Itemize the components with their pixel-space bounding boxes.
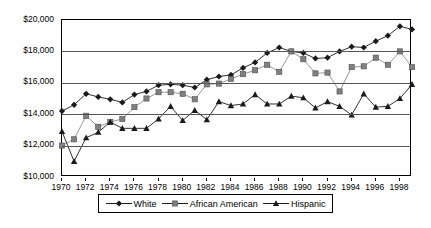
- square-marker: [192, 97, 197, 102]
- x-axis-tickmark: [351, 178, 352, 181]
- square-marker: [96, 124, 101, 129]
- triangle-marker: [167, 103, 173, 109]
- square-marker: [337, 89, 342, 94]
- diamond-marker: [409, 26, 415, 32]
- diamond-marker: [216, 73, 222, 79]
- x-axis-tick-label: 1992: [317, 182, 336, 192]
- triangle-marker: [240, 101, 246, 107]
- triangle-marker: [361, 90, 367, 96]
- square-marker: [313, 71, 318, 76]
- legend-item-hispanic[interactable]: Hispanic: [263, 199, 326, 209]
- gridline: [62, 114, 410, 115]
- square-marker-icon: [162, 199, 188, 208]
- y-axis-tick-label: $14,000: [23, 109, 54, 118]
- square-marker: [373, 55, 378, 60]
- square-marker: [132, 105, 137, 110]
- x-axis-tickmark: [85, 178, 86, 181]
- legend-item-white[interactable]: White: [106, 199, 157, 209]
- series-layer: [62, 20, 412, 177]
- diamond-marker: [192, 84, 198, 90]
- x-axis-tick-label: 1982: [196, 182, 215, 192]
- x-axis-tick-label: 1984: [220, 182, 239, 192]
- triangle-marker: [216, 98, 222, 104]
- diamond-marker: [361, 44, 367, 50]
- x-axis-tick-label: 1980: [172, 182, 191, 192]
- diamond-marker: [276, 44, 282, 50]
- income-line-chart: $20,000$18,000$16,000$14,000$12,000$10,0…: [0, 0, 431, 228]
- triangle-marker: [59, 128, 65, 134]
- square-marker: [325, 70, 330, 75]
- x-axis-tick-label: 1998: [389, 182, 408, 192]
- x-axis-tickmark: [61, 178, 62, 181]
- series-hispanic: [59, 81, 415, 164]
- square-marker: [409, 65, 414, 70]
- square-marker: [168, 90, 173, 95]
- x-axis-tickmark: [158, 178, 159, 181]
- y-axis-tick-label: $16,000: [23, 77, 54, 86]
- x-axis-tickmark: [230, 178, 231, 181]
- triangle-marker: [252, 91, 258, 97]
- diamond-marker: [119, 99, 125, 105]
- y-axis: $20,000$18,000$16,000$14,000$12,000$10,0…: [0, 0, 58, 228]
- diamond-marker-icon: [106, 199, 132, 208]
- y-axis-tick-label: $18,000: [23, 46, 54, 55]
- x-axis-tick-label: 1994: [341, 182, 360, 192]
- diamond-marker: [143, 88, 149, 94]
- x-axis-tickmark: [302, 178, 303, 181]
- plot-area: [61, 19, 411, 176]
- x-axis-tickmark: [182, 178, 183, 181]
- chart-legend: WhiteAfrican AmericanHispanic: [98, 194, 333, 213]
- x-axis: 1970197219741976197819801982198419861988…: [0, 178, 431, 192]
- square-marker: [180, 91, 185, 96]
- diamond-marker: [115, 200, 121, 206]
- square-marker: [349, 65, 354, 70]
- x-axis-tick-label: 1972: [76, 182, 95, 192]
- square-marker: [240, 72, 245, 77]
- x-axis-tick-label: 1970: [52, 182, 71, 192]
- square-marker: [277, 69, 282, 74]
- legend-label: White: [134, 199, 157, 209]
- y-axis-tick-label: $12,000: [23, 140, 54, 149]
- diamond-marker: [324, 55, 330, 61]
- x-axis-tickmark: [206, 178, 207, 181]
- square-marker: [144, 96, 149, 101]
- diamond-marker: [95, 94, 101, 100]
- square-marker: [265, 62, 270, 67]
- square-marker: [253, 68, 258, 73]
- x-axis-tickmark: [375, 178, 376, 181]
- x-axis-tick-label: 1988: [269, 182, 288, 192]
- x-axis-tick-label: 1996: [365, 182, 384, 192]
- triangle-marker: [71, 158, 77, 164]
- square-marker: [120, 116, 125, 121]
- x-axis-tick-label: 1976: [124, 182, 143, 192]
- x-axis-tick-label: 1974: [100, 182, 119, 192]
- x-axis-tickmark: [109, 178, 110, 181]
- series-line: [62, 26, 412, 111]
- x-axis-tick-label: 1978: [148, 182, 167, 192]
- x-axis-tickmark: [327, 178, 328, 181]
- triangle-marker: [273, 200, 279, 206]
- x-axis-tickmark: [254, 178, 255, 181]
- legend-label: Hispanic: [291, 199, 326, 209]
- diamond-marker: [312, 55, 318, 61]
- triangle-marker: [288, 93, 294, 99]
- square-marker: [156, 90, 161, 95]
- x-axis-tickmark: [133, 178, 134, 181]
- diamond-marker: [373, 38, 379, 44]
- diamond-marker: [349, 44, 355, 50]
- square-marker: [361, 64, 366, 69]
- legend-label: African American: [190, 199, 258, 209]
- square-marker: [71, 137, 76, 142]
- legend-item-african-american[interactable]: African American: [162, 199, 258, 209]
- gridline: [62, 83, 410, 84]
- triangle-marker: [385, 103, 391, 109]
- square-marker: [228, 76, 233, 81]
- diamond-marker: [131, 91, 137, 97]
- diamond-marker: [240, 65, 246, 71]
- square-marker: [301, 57, 306, 62]
- gridline: [62, 51, 410, 52]
- x-axis-tickmark: [278, 178, 279, 181]
- y-axis-tick-label: $20,000: [23, 15, 54, 24]
- triangle-marker: [336, 103, 342, 109]
- x-axis-tick-label: 1986: [245, 182, 264, 192]
